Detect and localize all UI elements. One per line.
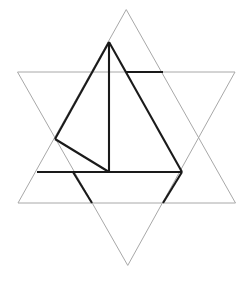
figure-background	[0, 0, 246, 281]
figure-container	[0, 0, 246, 281]
hexagram-diagram	[0, 0, 246, 281]
